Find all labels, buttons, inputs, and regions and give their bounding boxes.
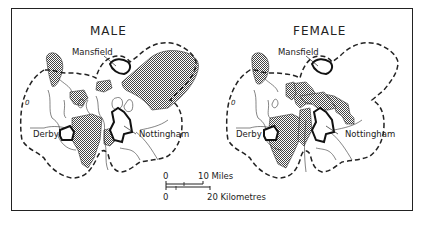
scale-bar: [166, 181, 210, 190]
scale-miles-label: 10 Miles: [198, 171, 233, 181]
scale-km-label: 20 Kilometres: [207, 192, 266, 202]
male-label-nottingham: Nottingham: [139, 129, 189, 139]
male-label-derby: Derby: [33, 129, 59, 139]
male-map-title: MALE: [90, 24, 127, 38]
male-map: [21, 43, 199, 178]
female-label-derby: Derby: [236, 129, 262, 139]
female-map-title: FEMALE: [293, 24, 346, 38]
female-label-zero: 0: [231, 99, 235, 107]
scale-miles-zero: 0: [163, 171, 168, 181]
scale-km-zero: 0: [163, 192, 168, 202]
male-label-zero: 0: [25, 99, 29, 107]
female-label-mansfield: Mansfield: [278, 47, 319, 57]
female-map: [227, 43, 398, 178]
female-label-nottingham: Nottingham: [345, 129, 395, 139]
male-label-mansfield: Mansfield: [72, 47, 113, 57]
